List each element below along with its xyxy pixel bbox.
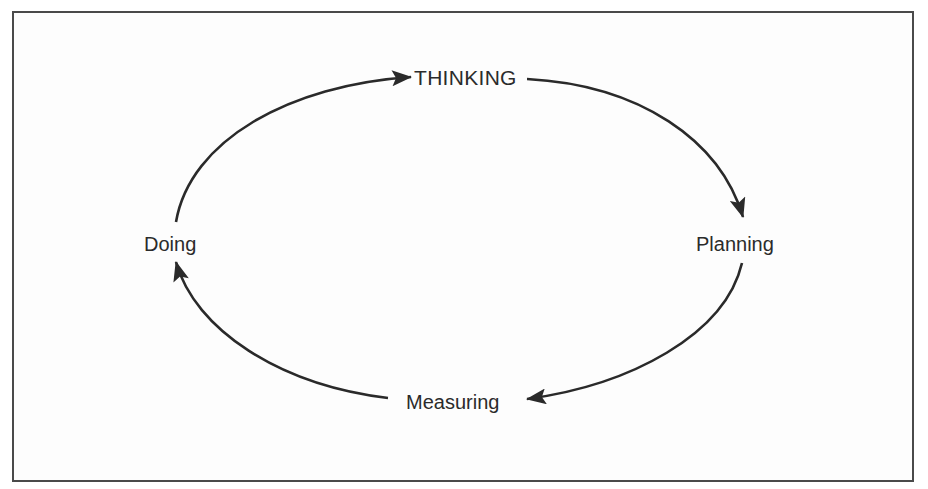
node-planning: Planning (696, 234, 774, 254)
node-doing: Doing (144, 234, 196, 254)
edge-doing-to-thinking (176, 77, 411, 222)
edge-planning-to-measuring (527, 263, 742, 399)
edge-thinking-to-planning (527, 79, 743, 217)
node-thinking: THINKING (414, 67, 517, 88)
edge-measuring-to-doing (176, 262, 388, 398)
node-measuring: Measuring (406, 392, 499, 412)
